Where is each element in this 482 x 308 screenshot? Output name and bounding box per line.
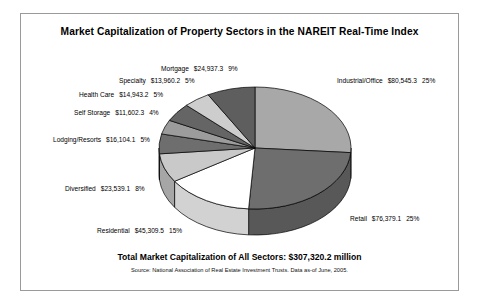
total-capitalization-line: Total Market Capitalization of All Secto… [21,252,458,262]
slice-value: $24,937.3 [194,65,223,72]
slice-percent: 9% [228,65,238,72]
slice-value: $14,943.2 [119,91,148,98]
slice-name: Industrial/Office [337,77,383,84]
slice-percent: 25% [422,77,435,84]
slice-label-health-care: Health Care$14,943.25% [79,90,163,99]
slice-name: Residential [97,227,130,234]
pie-chart [155,62,355,247]
page-title: Market Capitalization of Property Sector… [21,26,458,37]
pie-top-faces [159,87,351,209]
slice-name: Lodging/Resorts [53,136,101,143]
slice-label-lodging-resorts: Lodging/Resorts$16,104.15% [53,135,150,144]
screenshot-root: Market Capitalization of Property Sector… [0,0,482,308]
slice-label-retail: Retail$76,379.125% [350,214,419,223]
slice-label-industrial-office: Industrial/Office$80,545.325% [337,76,435,85]
slice-percent: 15% [169,227,182,234]
slice-name: Health Care [79,91,114,98]
slice-label-specialty: Specialty$13,960.25% [119,76,195,85]
slice-value: $23,539.1 [101,185,130,192]
slice-percent: 5% [185,77,195,84]
slice-name: Mortgage [161,65,189,72]
chart-card: Market Capitalization of Property Sector… [20,13,459,291]
source-note: Source: National Association of Real Est… [21,267,458,273]
slice-value: $11,602.3 [115,109,144,116]
slice-label-diversified: Diversified$23,539.18% [65,184,145,193]
slice-name: Retail [350,215,367,222]
slice-name: Specialty [119,77,146,84]
slice-value: $16,104.1 [106,136,135,143]
slice-value: $45,309.5 [135,227,164,234]
slice-percent: 5% [140,136,150,143]
slice-label-residential: Residential$45,309.515% [97,226,182,235]
slice-value: $80,545.3 [388,77,417,84]
pie-slice-industrial-office [255,87,351,153]
slice-name: Diversified [65,185,96,192]
slice-name: Self Storage [74,109,110,116]
slice-percent: 4% [149,109,159,116]
slice-percent: 5% [154,91,164,98]
slice-label-mortgage: Mortgage$24,937.39% [161,64,238,73]
slice-value: $13,960.2 [151,77,180,84]
slice-percent: 25% [406,215,419,222]
slice-label-self-storage: Self Storage$11,602.34% [74,108,159,117]
pie-chart-svg [155,62,355,247]
slice-value: $76,379.1 [372,215,401,222]
slice-percent: 8% [135,185,145,192]
